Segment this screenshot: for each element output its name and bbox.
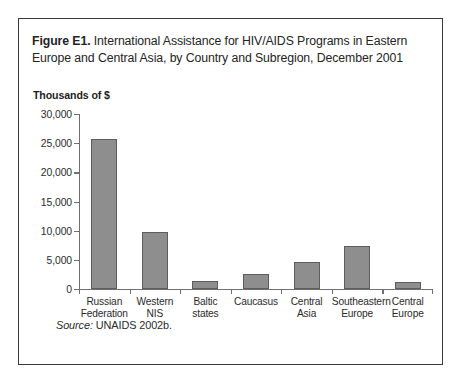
x-category-label-line: states [180, 308, 231, 320]
x-category-label: Caucasus [231, 296, 282, 308]
x-category-label-line: Europe [382, 308, 433, 320]
x-category-label-line: Central [281, 296, 332, 308]
y-tick-label: 10,000 [41, 225, 72, 236]
bar [91, 139, 117, 289]
x-axis-line [79, 289, 433, 290]
x-category-label: CentralEurope [382, 296, 433, 321]
x-category-label: SoutheasternEurope [332, 296, 383, 321]
source-text: UNAIDS 2002b. [93, 319, 172, 331]
y-tick-mark [74, 114, 79, 115]
x-category-label-line: Europe [332, 308, 383, 320]
x-tick-mark [180, 289, 181, 294]
x-category-label-line: Caucasus [231, 296, 282, 308]
x-tick-mark [79, 289, 80, 294]
y-tick-mark [74, 172, 79, 173]
y-tick-label: 0 [66, 284, 72, 295]
source-note: Source: UNAIDS 2002b. [56, 319, 172, 331]
x-category-label-line: Asia [281, 308, 332, 320]
y-tick-label: 25,000 [41, 138, 72, 149]
y-tick-label: 30,000 [41, 109, 72, 120]
x-category-label-line: Southeastern [332, 296, 383, 308]
figure-frame: Figure E1. International Assistance for … [18, 18, 443, 365]
x-category-label-line: Russian [79, 296, 130, 308]
bar [395, 282, 421, 289]
y-tick-label: 5,000 [46, 254, 72, 265]
x-category-label: WesternNIS [130, 296, 181, 321]
x-category-label-line: Central [382, 296, 433, 308]
bar [142, 232, 168, 289]
source-label: Source: [56, 319, 93, 331]
y-axis-line [79, 114, 80, 291]
x-category-label: CentralAsia [281, 296, 332, 321]
x-tick-mark [332, 289, 333, 294]
y-tick-mark [74, 202, 79, 203]
x-tick-mark [432, 289, 433, 294]
y-tick-mark [74, 260, 79, 261]
bar [192, 281, 218, 289]
bar [243, 274, 269, 289]
y-tick-mark [74, 231, 79, 232]
x-tick-mark [281, 289, 282, 294]
x-category-label: RussianFederation [79, 296, 130, 321]
y-tick-mark [74, 143, 79, 144]
y-tick-label: 20,000 [41, 167, 72, 178]
bar [344, 246, 370, 289]
x-category-label-line: Baltic [180, 296, 231, 308]
figure-label: Figure E1. [32, 34, 90, 48]
chart-plot-area: 30,00025,00020,00015,00010,0005,0000 Rus… [79, 100, 433, 289]
figure-caption: Figure E1. International Assistance for … [32, 33, 426, 66]
x-tick-mark [231, 289, 232, 294]
x-tick-mark [130, 289, 131, 294]
x-tick-mark [382, 289, 383, 294]
x-category-label-line: Western [130, 296, 181, 308]
x-category-label: Balticstates [180, 296, 231, 321]
y-tick-label: 15,000 [41, 196, 72, 207]
bar [294, 262, 320, 289]
